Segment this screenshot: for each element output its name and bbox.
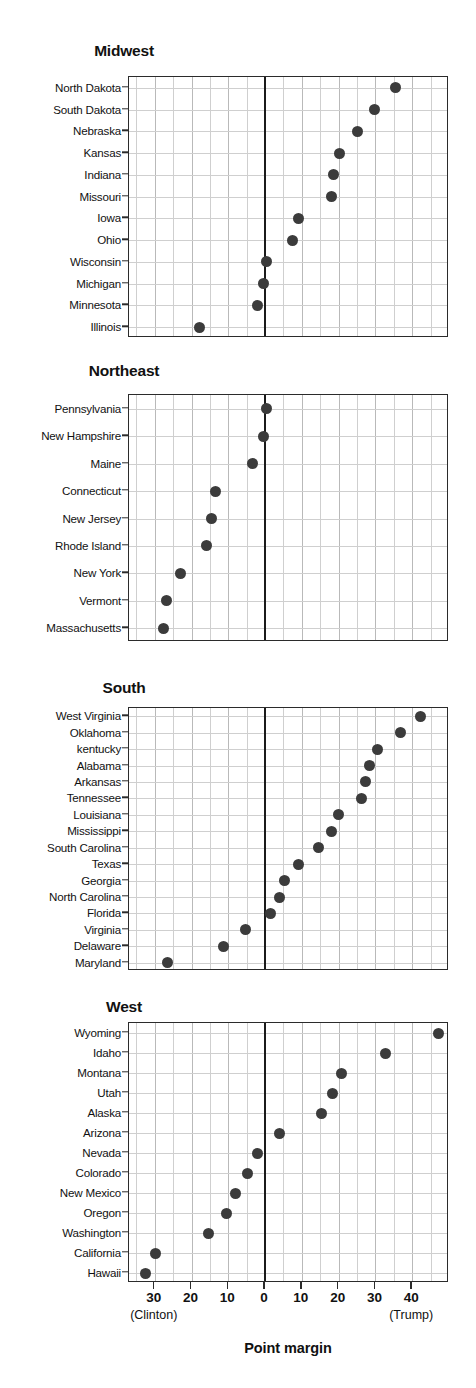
data-point	[161, 595, 172, 606]
y-axis-label: Wisconsin	[0, 254, 121, 267]
data-point	[293, 859, 304, 870]
gridline-vertical	[136, 1023, 137, 1281]
y-axis-tick	[122, 434, 128, 435]
data-point	[334, 148, 345, 159]
gridline-horizontal	[129, 1273, 447, 1274]
y-axis-tick	[122, 1191, 128, 1192]
y-axis-tick	[122, 945, 128, 946]
gridline-vertical	[155, 1023, 156, 1281]
gridline-horizontal	[129, 1093, 447, 1094]
y-axis-tick	[122, 195, 128, 196]
y-axis-label: New Mexico	[0, 1186, 121, 1199]
data-point	[140, 1268, 151, 1279]
data-point	[206, 513, 217, 524]
y-axis-tick	[122, 238, 128, 239]
y-axis-label: Delaware	[0, 939, 121, 952]
zero-reference-line	[264, 1023, 266, 1281]
gridline-horizontal	[129, 436, 447, 437]
y-axis-tick	[122, 780, 128, 781]
y-axis-label: Indiana	[0, 167, 121, 180]
gridline-horizontal	[129, 864, 447, 865]
gridline-horizontal	[129, 1113, 447, 1114]
y-axis-label: Washington	[0, 1226, 121, 1239]
gridline-vertical	[155, 395, 156, 640]
gridline-vertical	[394, 1023, 395, 1281]
data-point	[242, 1168, 253, 1179]
y-axis-label: Ohio	[0, 233, 121, 246]
gridline-horizontal	[129, 175, 447, 176]
gridline-vertical	[283, 77, 284, 336]
data-point	[328, 169, 339, 180]
y-axis-label: New York	[0, 566, 121, 579]
data-point	[258, 431, 269, 442]
gridline-horizontal	[129, 766, 447, 767]
data-point	[333, 809, 344, 820]
y-axis-tick	[122, 1251, 128, 1252]
data-point	[326, 191, 337, 202]
data-point	[240, 924, 251, 935]
axis-endcap-trump: (Trump)	[366, 1308, 456, 1322]
y-axis-tick	[122, 764, 128, 765]
x-axis-tick-label: 10	[281, 1290, 321, 1305]
y-axis-label: Arizona	[0, 1126, 121, 1139]
dot-plot-figure: MidwestNorth DakotaSouth DakotaNebraskaK…	[0, 0, 476, 1388]
y-axis-label: Idaho	[0, 1046, 121, 1059]
data-point	[261, 403, 272, 414]
gridline-horizontal	[129, 131, 447, 132]
data-point	[415, 711, 426, 722]
data-point	[252, 300, 263, 311]
gridline-vertical	[431, 395, 432, 640]
y-axis-tick	[122, 862, 128, 863]
gridline-vertical	[247, 77, 248, 336]
y-axis-label: Oregon	[0, 1206, 121, 1219]
y-axis-tick	[122, 1031, 128, 1032]
data-point	[258, 278, 269, 289]
gridline-vertical	[136, 395, 137, 640]
y-axis-label: Colorado	[0, 1166, 121, 1179]
y-axis-label: Nevada	[0, 1146, 121, 1159]
y-axis-tick	[122, 846, 128, 847]
y-axis-label: Florida	[0, 906, 121, 919]
x-axis-tick-label: 0	[244, 1290, 284, 1305]
gridline-vertical	[247, 1023, 248, 1281]
data-point	[274, 1128, 285, 1139]
data-point	[261, 256, 272, 267]
y-axis-tick	[122, 1231, 128, 1232]
y-axis-label: Illinois	[0, 320, 121, 333]
gridline-horizontal	[129, 110, 447, 111]
data-point	[274, 892, 285, 903]
gridline-vertical	[375, 1023, 376, 1281]
plot-area	[128, 707, 448, 970]
gridline-horizontal	[129, 546, 447, 547]
y-axis-tick	[122, 1171, 128, 1172]
x-axis-tick	[410, 1282, 412, 1289]
gridline-vertical	[320, 1023, 321, 1281]
zero-reference-line	[264, 77, 266, 336]
x-axis-tick	[374, 1282, 376, 1289]
data-point	[162, 957, 173, 968]
gridline-horizontal	[129, 1213, 447, 1214]
y-axis-label: Nebraska	[0, 124, 121, 137]
y-axis-label: Massachusetts	[0, 621, 121, 634]
gridline-horizontal	[129, 798, 447, 799]
y-axis-label: South Dakota	[0, 102, 121, 115]
gridline-horizontal	[129, 153, 447, 154]
gridline-vertical	[136, 77, 137, 336]
gridline-horizontal	[129, 749, 447, 750]
zero-reference-line	[264, 708, 266, 969]
data-point	[369, 104, 380, 115]
data-point	[313, 842, 324, 853]
y-axis-label: kentucky	[0, 742, 121, 755]
gridline-vertical	[339, 395, 340, 640]
x-axis-title: Point margin	[128, 1340, 448, 1356]
data-point	[221, 1208, 232, 1219]
gridline-horizontal	[129, 409, 447, 410]
y-axis-label: Maine	[0, 456, 121, 469]
y-axis-tick	[122, 1271, 128, 1272]
y-axis-tick	[122, 813, 128, 814]
gridline-horizontal	[129, 1233, 447, 1234]
y-axis-label: Maryland	[0, 955, 121, 968]
y-axis-tick	[122, 86, 128, 87]
gridline-vertical	[394, 395, 395, 640]
data-point	[327, 1088, 338, 1099]
